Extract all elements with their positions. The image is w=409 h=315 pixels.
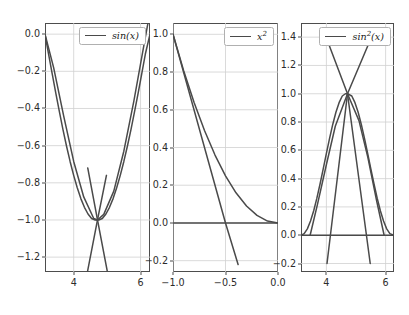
y-tick-label: 1.4 xyxy=(281,32,296,42)
y-tick-mark xyxy=(170,260,173,261)
subplot-sin-squared-x: 1.41.21.00.80.60.40.20.0−0.246 sin2(x) xyxy=(301,23,394,272)
x-tick-label: 0.0 xyxy=(270,278,285,288)
y-tick-label: 0.0 xyxy=(153,218,168,228)
x-tick-label: −0.5 xyxy=(214,278,237,288)
y-tick-label: −0.2 xyxy=(145,256,168,266)
y-tick-mark xyxy=(42,145,45,146)
y-tick-mark xyxy=(42,108,45,109)
y-tick-label: 0.0 xyxy=(25,29,40,39)
y-tick-label: 1.2 xyxy=(281,61,296,71)
y-tick-label: −1.0 xyxy=(17,215,40,225)
plot-canvas-0 xyxy=(45,23,150,272)
y-tick-mark xyxy=(42,71,45,72)
y-tick-label: 0.0 xyxy=(281,230,296,240)
legend-line-swatch xyxy=(85,35,106,36)
y-tick-label: 0.4 xyxy=(281,174,296,184)
y-tick-label: 0.4 xyxy=(153,143,168,153)
x-tick-label: −1.0 xyxy=(161,278,184,288)
y-tick-label: −0.2 xyxy=(273,259,296,269)
y-tick-mark xyxy=(170,222,173,223)
y-tick-label: 0.8 xyxy=(281,117,296,127)
legend-label-x-squared: x2 xyxy=(257,31,267,42)
y-tick-label: 0.6 xyxy=(153,105,168,115)
x-tick-label: 6 xyxy=(137,278,143,288)
y-tick-mark xyxy=(170,34,173,35)
y-tick-label: 1.0 xyxy=(281,89,296,99)
y-tick-label: 1.0 xyxy=(153,30,168,40)
y-tick-mark xyxy=(298,150,301,151)
y-tick-label: 0.2 xyxy=(281,202,296,212)
y-tick-mark xyxy=(298,263,301,264)
y-tick-mark xyxy=(170,109,173,110)
y-tick-mark xyxy=(298,178,301,179)
legend-0[interactable]: sin(x) xyxy=(79,27,146,45)
y-tick-mark xyxy=(298,122,301,123)
y-tick-mark xyxy=(42,34,45,35)
x-tick-label: 6 xyxy=(383,278,389,288)
legend-line-swatch xyxy=(325,36,346,37)
y-tick-mark xyxy=(42,219,45,220)
y-tick-mark xyxy=(170,147,173,148)
y-tick-label: −0.8 xyxy=(17,178,40,188)
y-tick-mark xyxy=(298,235,301,236)
y-tick-mark xyxy=(42,182,45,183)
legend-2[interactable]: sin2(x) xyxy=(319,27,391,46)
y-tick-mark xyxy=(170,185,173,186)
x-tick-mark xyxy=(73,272,74,275)
y-tick-mark xyxy=(298,37,301,38)
legend-label-sin-x: sin(x) xyxy=(112,31,139,41)
legend-1[interactable]: x2 xyxy=(224,27,274,46)
x-tick-mark xyxy=(326,272,327,275)
matplotlib-figure: 0.0−0.2−0.4−0.6−0.8−1.0−1.246 sin(x) 1.0… xyxy=(0,0,409,315)
y-tick-mark xyxy=(42,257,45,258)
legend-line-swatch xyxy=(230,36,251,37)
x-tick-label: 4 xyxy=(71,278,77,288)
y-tick-label: −1.2 xyxy=(17,252,40,262)
x-tick-mark xyxy=(173,272,174,275)
x-tick-mark xyxy=(140,272,141,275)
y-tick-label: −0.4 xyxy=(17,104,40,114)
y-tick-mark xyxy=(298,206,301,207)
y-tick-mark xyxy=(298,93,301,94)
y-tick-label: 0.8 xyxy=(153,67,168,77)
x-tick-label: 4 xyxy=(323,278,329,288)
y-tick-mark xyxy=(298,65,301,66)
plot-canvas-1 xyxy=(173,23,278,272)
subplot-x-squared: 1.00.80.60.40.20.0−0.2−1.0−0.50.0 x2 xyxy=(173,23,278,272)
x-tick-mark xyxy=(385,272,386,275)
legend-label-sin-squared-x: sin2(x) xyxy=(352,31,384,42)
y-tick-label: 0.2 xyxy=(153,180,168,190)
y-tick-label: 0.6 xyxy=(281,146,296,156)
y-tick-label: −0.2 xyxy=(17,67,40,77)
y-tick-label: −0.6 xyxy=(17,141,40,151)
plot-canvas-2 xyxy=(301,23,394,272)
subplot-sin-x: 0.0−0.2−0.4−0.6−0.8−1.0−1.246 sin(x) xyxy=(45,23,150,272)
x-tick-mark xyxy=(225,272,226,275)
y-tick-mark xyxy=(170,72,173,73)
x-tick-mark xyxy=(278,272,279,275)
